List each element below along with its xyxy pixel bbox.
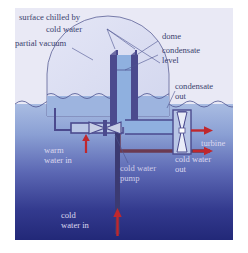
- label-condensate-level: condensate level: [162, 46, 200, 65]
- pipe-lip-left: [116, 50, 118, 55]
- label-cold-water-top: cold water: [46, 25, 82, 35]
- label-dome: dome: [162, 32, 181, 42]
- dome-inner-pipe-interior: [117, 55, 131, 127]
- label-turbine: turbine: [201, 139, 225, 149]
- otec-diagram: surface chilled by cold water partial va…: [15, 8, 233, 240]
- figure-root: surface chilled by cold water partial va…: [0, 0, 248, 253]
- label-partial-vacuum: partial vacuum: [15, 39, 66, 49]
- label-warm-water-in: warm water in: [44, 146, 72, 165]
- turbine: [173, 110, 191, 154]
- label-cold-water-out: cold water out: [175, 155, 211, 174]
- label-cold-water-pump: cold water pump: [120, 164, 156, 183]
- label-surface-chilled: surface chilled by: [19, 13, 80, 23]
- label-cold-water-in: cold water in: [61, 211, 89, 230]
- label-condensate-out: condensate out: [175, 82, 213, 101]
- pipe-lip-right: [135, 50, 137, 55]
- steam-duct-fill: [125, 120, 179, 134]
- dome-inner-pipe-left-wall: [110, 55, 117, 127]
